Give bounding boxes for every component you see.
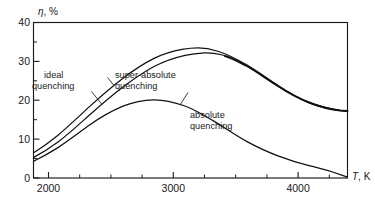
annotation-line-1: absolute bbox=[190, 110, 225, 120]
chart-figure: 40 30 20 10 0 2000 3000 4000 η, % T, bbox=[0, 0, 375, 205]
chart-background bbox=[0, 0, 375, 205]
chart-svg: 40 30 20 10 0 2000 3000 4000 η, % T, bbox=[0, 0, 375, 205]
y-tick-label: 10 bbox=[18, 133, 30, 145]
y-tick-label: 40 bbox=[18, 16, 30, 28]
y-tick-label: 20 bbox=[18, 94, 30, 106]
y-tick-label: 0 bbox=[24, 172, 30, 184]
annotation-line-1: super-absolute bbox=[115, 70, 176, 80]
x-tick-label: 3000 bbox=[162, 182, 186, 194]
y-axis-title: η, % bbox=[38, 6, 58, 17]
x-tick-label: 2000 bbox=[37, 182, 61, 194]
annotation-line-2: quenching bbox=[115, 81, 157, 91]
annotation-line-2: quenching bbox=[32, 81, 74, 91]
x-axis-title: T, K bbox=[352, 171, 371, 182]
annotation-line-1: ideal bbox=[44, 70, 63, 80]
annotation-line-2: quenching bbox=[190, 121, 232, 131]
x-tick-label: 4000 bbox=[286, 182, 310, 194]
y-tick-label: 30 bbox=[18, 55, 30, 67]
